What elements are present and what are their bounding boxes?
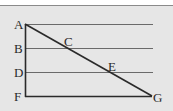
label-c: C [64,34,73,49]
segment-ag [25,24,152,96]
label-f: F [14,89,21,104]
label-g: G [153,90,162,105]
label-b: B [14,41,23,56]
label-d: D [14,65,23,80]
label-e: E [108,59,116,74]
geometry-diagram: A B C D E F G [0,0,173,110]
label-a: A [14,17,24,32]
